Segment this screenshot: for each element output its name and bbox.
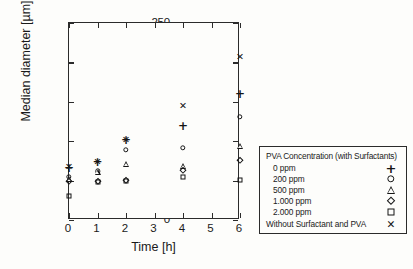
y-axis-tick	[233, 62, 238, 63]
y-axis-tick	[69, 220, 74, 221]
data-point-circle	[387, 175, 394, 182]
y-axis-tick	[69, 102, 74, 103]
data-point-plus: +	[235, 88, 245, 100]
data-point-square	[67, 193, 72, 198]
y-axis-tick	[69, 62, 74, 63]
median-diameter-scatter-chart: Median diameter [µm] Time [h] 0501001502…	[0, 0, 413, 269]
data-point-plus: +	[178, 120, 188, 132]
y-axis-tick	[233, 220, 238, 221]
data-point-triangle	[180, 163, 186, 169]
data-point-square	[238, 177, 243, 182]
legend-entry: 200 ppm	[266, 173, 401, 184]
data-point-circle	[237, 114, 242, 119]
x-axis-title: Time [h]	[68, 240, 239, 254]
legend-entry-label: 200 ppm	[266, 174, 381, 184]
y-axis-title: Median diameter [µm]	[19, 0, 33, 161]
data-point-cross: ✕	[65, 162, 73, 172]
x-axis-tick	[240, 213, 241, 218]
data-point-triangle	[387, 186, 395, 194]
legend-entries: 0 ppm+200 ppm500 ppm1.000 ppm2.000 ppmWi…	[266, 162, 401, 229]
data-point-triangle	[237, 143, 243, 149]
x-axis-tick	[98, 213, 99, 218]
x-axis-tick-label: 4	[172, 222, 192, 234]
data-point-triangle	[123, 161, 129, 167]
y-axis-tick	[233, 23, 238, 24]
data-point-plus: +	[121, 134, 131, 146]
legend-entry-label: 2.000 ppm	[266, 207, 381, 217]
x-axis-tick	[69, 213, 70, 218]
legend-entry-label: 0 ppm	[266, 163, 381, 173]
data-point-diamond	[94, 178, 100, 184]
x-axis-tick-label: 1	[87, 222, 107, 234]
x-axis-tick-label: 5	[201, 222, 221, 234]
data-point-square	[95, 180, 100, 185]
data-point-square	[388, 209, 395, 216]
chart-legend: PVA Concentration (with Surfactants) 0 p…	[259, 146, 407, 234]
x-axis-tick	[240, 23, 241, 28]
data-point-diamond	[386, 197, 395, 206]
data-point-diamond	[237, 157, 243, 163]
data-point-diamond	[180, 166, 186, 172]
plot-area: +++++✕✕✕✕✕	[68, 22, 239, 219]
data-point-plus: +	[64, 162, 74, 174]
data-point-triangle	[95, 169, 101, 175]
legend-entry-label: 1.000 ppm	[266, 196, 381, 206]
legend-entry: 1.000 ppm	[266, 196, 401, 207]
data-point-cross: ✕	[94, 158, 102, 168]
x-axis-tick	[155, 23, 156, 28]
legend-entry: Without Surfactant and PVA✕	[266, 218, 401, 229]
y-axis-tick	[233, 181, 238, 182]
data-point-square	[181, 174, 186, 179]
legend-entry: 0 ppm+	[266, 162, 401, 173]
data-point-cross: ✕	[179, 101, 187, 111]
legend-entry-label: 500 ppm	[266, 185, 381, 195]
legend-entry: 500 ppm	[266, 184, 401, 195]
x-axis-tick	[126, 23, 127, 28]
data-point-circle	[95, 168, 100, 173]
x-axis-tick	[69, 23, 70, 28]
x-axis-tick-label: 0	[58, 222, 78, 234]
legend-entry-marker	[381, 196, 401, 207]
legend-entry: 2.000 ppm	[266, 207, 401, 218]
x-axis-tick	[183, 213, 184, 218]
x-axis-tick	[126, 213, 127, 218]
data-point-circle	[123, 147, 128, 152]
legend-entry-marker	[381, 173, 401, 184]
data-point-plus: +	[92, 156, 102, 168]
data-point-circle	[66, 174, 71, 179]
legend-entry-marker	[381, 207, 401, 218]
x-axis-tick-label: 6	[229, 222, 249, 234]
legend-entry-marker	[381, 184, 401, 195]
x-axis-tick	[212, 23, 213, 28]
data-point-circle	[180, 145, 185, 150]
data-point-cross: ✕	[122, 135, 130, 145]
legend-entry-label: Without Surfactant and PVA	[266, 219, 381, 229]
legend-entry-marker: +	[381, 162, 401, 173]
y-axis-tick	[69, 181, 74, 182]
x-axis-tick	[183, 23, 184, 28]
x-axis-tick	[98, 23, 99, 28]
y-axis-tick	[233, 102, 238, 103]
x-axis-tick	[155, 213, 156, 218]
x-axis-tick-label: 3	[144, 222, 164, 234]
data-point-plus: +	[386, 161, 397, 174]
x-axis-tick-label: 2	[115, 222, 135, 234]
x-axis-tick	[212, 213, 213, 218]
data-point-cross: ✕	[236, 52, 244, 62]
legend-entry-marker: ✕	[381, 218, 401, 229]
legend-title: PVA Concentration (with Surfactants)	[266, 151, 401, 161]
y-axis-tick	[69, 141, 74, 142]
y-axis-tick	[233, 141, 238, 142]
data-point-diamond	[123, 177, 129, 183]
data-point-square	[124, 178, 129, 183]
data-point-cross: ✕	[387, 218, 396, 229]
